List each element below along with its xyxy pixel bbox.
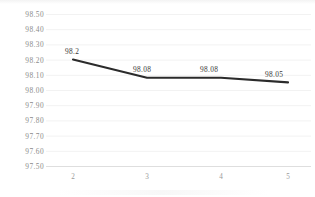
y-tick-label: 97.50	[2, 163, 44, 170]
data-point-label: 98.08	[133, 66, 151, 73]
line-chart: 98.50 98.40 98.30 98.20 98.10 98.00 97.9…	[0, 0, 315, 197]
data-point-label: 98.2	[65, 48, 79, 55]
data-point-label: 98.08	[200, 66, 218, 73]
y-tick-label: 98.40	[2, 26, 44, 33]
y-tick-label: 98.00	[2, 87, 44, 94]
y-tick-label: 97.70	[2, 133, 44, 140]
data-series-line	[73, 60, 288, 83]
y-tick-label: 98.10	[2, 72, 44, 79]
x-tick-label: 5	[276, 174, 300, 181]
y-tick-label: 97.60	[2, 148, 44, 155]
y-tick-label: 97.80	[2, 117, 44, 124]
data-point-label: 98.05	[265, 71, 283, 78]
y-tick-label: 97.90	[2, 102, 44, 109]
x-tick-label: 4	[209, 174, 233, 181]
plot-area	[0, 0, 315, 197]
x-tick-label: 3	[135, 174, 159, 181]
scan-artifact-band	[58, 190, 268, 195]
x-tick-label: 2	[61, 174, 85, 181]
y-tick-label: 98.50	[2, 11, 44, 18]
y-tick-label: 98.30	[2, 41, 44, 48]
gridlines	[46, 15, 311, 152]
y-tick-label: 98.20	[2, 57, 44, 64]
